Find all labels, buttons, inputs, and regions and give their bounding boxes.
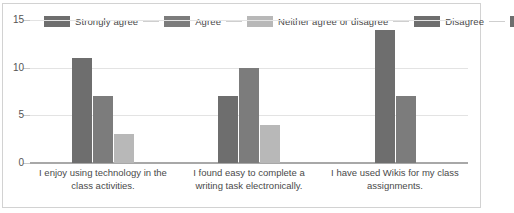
y-tick-label: 0	[18, 158, 24, 168]
x-axis-label: I enjoy using technology in the class ac…	[30, 166, 176, 192]
bar	[72, 58, 92, 163]
bar-group	[30, 20, 176, 163]
bar	[93, 96, 113, 163]
bar	[375, 30, 395, 163]
bar	[396, 96, 416, 163]
plot-area: 051015	[30, 20, 468, 163]
legend-separator	[489, 21, 505, 22]
bar	[114, 134, 134, 163]
y-tick-mark	[23, 68, 30, 69]
gridline: 0	[30, 163, 468, 164]
y-tick-label: 5	[18, 110, 24, 120]
bar	[218, 96, 238, 163]
bar	[239, 68, 259, 163]
y-tick-label: 15	[13, 15, 24, 25]
bar-group	[176, 20, 322, 163]
y-tick-mark	[23, 20, 30, 21]
bar-groups	[30, 20, 468, 163]
y-tick-label: 10	[13, 63, 24, 73]
bar-group	[322, 20, 468, 163]
bar	[260, 125, 280, 163]
x-axis-label: I found easy to complete a writing task …	[176, 166, 322, 192]
legend-swatch-truncated	[510, 16, 514, 27]
x-axis-label: I have used Wikis for my class assignmen…	[322, 166, 468, 192]
x-axis-labels: I enjoy using technology in the class ac…	[30, 166, 468, 192]
